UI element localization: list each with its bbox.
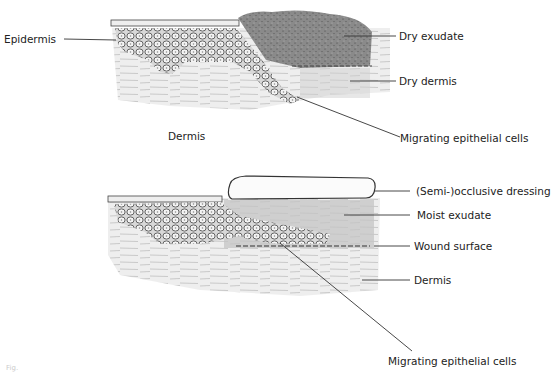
figure-caption: Fig. [6, 364, 18, 372]
label-migrating-cells-bottom: Migrating epithelial cells [388, 355, 516, 367]
label-dry-exudate: Dry exudate [399, 30, 464, 42]
label-dermis-bottom: Dermis [414, 274, 451, 286]
label-wound-surface: Wound surface [414, 240, 492, 252]
label-dermis-top: Dermis [168, 130, 205, 142]
label-migrating-cells-top: Migrating epithelial cells [400, 132, 528, 144]
top-panel [64, 10, 400, 137]
label-moist-exudate: Moist exudate [417, 209, 491, 221]
label-dressing: (Semi-)occlusive dressing [416, 185, 551, 197]
label-epidermis: Epidermis [4, 33, 56, 45]
bottom-panel [108, 176, 412, 351]
label-dry-dermis: Dry dermis [399, 75, 457, 87]
